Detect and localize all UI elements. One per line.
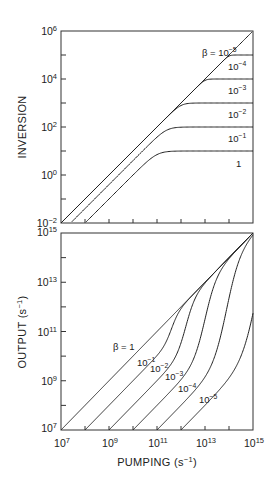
- series-label-output: 10−5: [199, 393, 218, 405]
- y-axis-title-inversion: INVERSION: [16, 95, 28, 158]
- curve-output-beta-1e-5: [181, 313, 253, 430]
- x-tick-label: 107: [54, 436, 70, 449]
- x-tick-label: 1013: [196, 436, 216, 449]
- chart-figure: 10610410210010−2INVERSIONβ = 10−510−410−…: [0, 0, 279, 487]
- y-tick-label: 104: [41, 72, 57, 85]
- series-label-inversion: 1: [236, 158, 241, 169]
- y-tick-label: 102: [41, 120, 57, 133]
- y-tick-label: 1013: [37, 275, 57, 288]
- x-tick-label: 1011: [148, 436, 167, 449]
- series-label-inversion: 10−1: [228, 132, 247, 144]
- series-label-inversion: 10−2: [228, 108, 247, 120]
- curve-inversion-beta-1e-1: [72, 127, 253, 222]
- curve-inversion-beta-1e-2: [62, 103, 253, 222]
- x-tick-label: 109: [102, 436, 118, 449]
- output-panel: 101510131011109107107109101110131015OUTP…: [15, 225, 264, 468]
- curve-inversion-beta-1: [86, 151, 253, 222]
- y-tick-label: 100: [41, 168, 57, 181]
- curve-inversion-beta-1e-4: [61, 55, 253, 223]
- y-tick-label: 106: [41, 24, 57, 37]
- curve-output-beta-1e-2: [109, 233, 253, 430]
- series-label-inversion: 10−4: [228, 60, 247, 72]
- series-label-inversion: 10−3: [228, 84, 247, 96]
- y-tick-label: 109: [41, 374, 57, 387]
- x-tick-label: 1015: [244, 436, 264, 449]
- curve-output-beta-1e-3: [133, 233, 253, 430]
- inversion-panel: 10610410210010−2INVERSIONβ = 10−510−410−…: [16, 24, 253, 229]
- y-tick-label: 1011: [38, 325, 57, 338]
- curve-output-beta-1e-1: [85, 233, 253, 430]
- x-axis-title-pumping: PUMPING (s−1): [117, 455, 197, 468]
- series-label-inversion: β = 10−5: [202, 46, 237, 58]
- y-tick-label: 1015: [37, 225, 57, 238]
- series-label-output: β = 1: [113, 341, 135, 352]
- y-tick-label: 107: [41, 421, 57, 434]
- y-axis-title-output: OUTPUT (s−1): [15, 295, 28, 368]
